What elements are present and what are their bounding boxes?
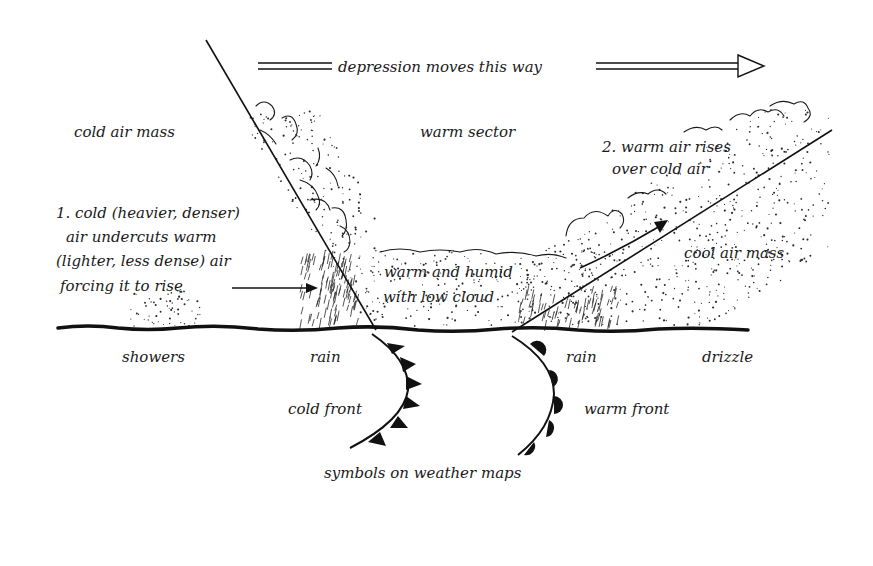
stipple-dot xyxy=(709,186,711,188)
stipple-dot xyxy=(593,252,595,254)
stipple-dot xyxy=(336,221,338,223)
stipple-dot xyxy=(342,202,344,204)
stipple-dot xyxy=(709,302,710,303)
stipple-dot xyxy=(773,208,774,209)
stipple-dot xyxy=(583,272,584,273)
stipple-dot xyxy=(440,260,442,262)
rain-stroke xyxy=(308,274,310,281)
stipple-dot xyxy=(368,291,369,292)
stipple-dot xyxy=(331,145,332,146)
stipple-dot xyxy=(687,289,689,291)
stipple-dot xyxy=(633,236,635,238)
stipple-dot xyxy=(785,151,787,153)
stipple-dot xyxy=(518,301,520,303)
stipple-dot xyxy=(611,315,613,317)
stipple-dot xyxy=(377,311,379,313)
rain-stroke xyxy=(552,312,554,320)
stipple-dot xyxy=(828,154,829,155)
stipple-dot xyxy=(717,295,718,296)
stipple-dot xyxy=(766,132,768,134)
stipple-dot xyxy=(263,119,264,120)
stipple-dot xyxy=(346,234,347,235)
stipple-dot xyxy=(651,300,653,302)
stipple-dot xyxy=(733,207,734,208)
stipple-dot xyxy=(169,323,170,324)
rain-stroke xyxy=(338,288,340,296)
stipple-dot xyxy=(753,282,755,284)
stipple-dot xyxy=(592,274,594,276)
stipple-dot xyxy=(765,112,766,113)
stipple-dot xyxy=(366,288,368,290)
stipple-dot xyxy=(549,305,550,306)
stipple-dot xyxy=(596,296,597,297)
stipple-dot xyxy=(576,285,578,287)
stipple-dot xyxy=(181,298,183,300)
rain-stroke xyxy=(319,318,321,329)
stipple-dot xyxy=(180,322,181,323)
stipple-dot xyxy=(130,318,131,319)
stipple-dot xyxy=(791,121,792,122)
stipple-dot xyxy=(558,312,559,313)
stipple-dot xyxy=(661,240,662,241)
stipple-dot xyxy=(709,320,711,322)
stipple-dot xyxy=(396,259,398,261)
stipple-dot xyxy=(642,246,643,247)
stipple-dot xyxy=(349,199,351,201)
stipple-dot xyxy=(705,235,707,237)
stipple-dot xyxy=(795,144,796,145)
stipple-dot xyxy=(314,120,315,121)
stipple-dot xyxy=(759,290,761,292)
stipple-dot xyxy=(312,192,314,194)
stipple-dot xyxy=(521,290,522,291)
stipple-dot xyxy=(803,218,805,220)
stipple-dot xyxy=(292,199,294,201)
stipple-dot xyxy=(779,222,781,224)
map-symbols-caption: symbols on weather maps xyxy=(324,464,522,482)
stipple-dot xyxy=(474,282,475,283)
stipple-dot xyxy=(359,193,360,194)
stipple-dot xyxy=(588,239,590,241)
stipple-dot xyxy=(734,308,735,309)
stipple-dot xyxy=(656,279,658,281)
stipple-dot xyxy=(657,265,658,266)
stipple-dot xyxy=(774,121,776,123)
stipple-dot xyxy=(585,289,586,290)
stipple-dot xyxy=(366,308,367,309)
cold-front-boundary-line xyxy=(206,40,376,330)
stipple-dot xyxy=(733,199,735,201)
stipple-dot xyxy=(548,248,550,250)
stipple-dot xyxy=(734,307,735,308)
stipple-dot xyxy=(521,322,523,324)
stipple-dot xyxy=(313,163,314,164)
stipple-dot xyxy=(307,199,309,201)
stipple-dot xyxy=(296,207,297,208)
stipple-dot xyxy=(179,296,180,297)
stipple-dot xyxy=(751,210,753,212)
rain-stroke xyxy=(544,303,546,310)
stipple-dot xyxy=(583,249,585,251)
stipple-dot xyxy=(786,253,788,255)
stipple-dot xyxy=(311,135,312,136)
annotation-line: warm and humid xyxy=(384,263,513,281)
stipple-dot xyxy=(748,296,749,297)
stipple-dot xyxy=(777,113,779,115)
stipple-dot xyxy=(169,317,171,319)
stipple-dot xyxy=(573,295,575,297)
stipple-dot xyxy=(683,210,684,211)
stipple-dot xyxy=(707,317,708,318)
stipple-dot xyxy=(194,322,195,323)
stipple-dot xyxy=(305,170,307,172)
stipple-dot xyxy=(759,222,761,224)
stipple-dot xyxy=(589,231,590,232)
stipple-dot xyxy=(526,282,528,284)
stipple-dot xyxy=(750,126,751,127)
stipple-dot xyxy=(356,266,357,267)
stipple-dot xyxy=(722,163,723,164)
stipple-dot xyxy=(795,169,797,171)
stipple-dot xyxy=(311,122,312,123)
stipple-dot xyxy=(342,187,343,188)
stipple-dot xyxy=(288,189,290,191)
stipple-dot xyxy=(549,316,551,318)
stipple-dot xyxy=(591,251,593,253)
stipple-dot xyxy=(600,263,602,265)
